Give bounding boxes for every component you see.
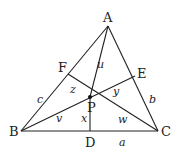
segment-label-x: x [81, 112, 88, 125]
side-label-b: b [149, 93, 156, 106]
label-e: E [137, 66, 147, 81]
label-p: P [87, 100, 96, 115]
segment-label-z: z [69, 83, 76, 96]
label-b: B [9, 124, 19, 139]
segment-label-v: v [56, 112, 63, 125]
label-d: D [85, 135, 95, 150]
segment-label-u: u [97, 58, 104, 71]
segment-label-w: w [118, 113, 128, 126]
point-p-dot [88, 95, 92, 99]
segment-label-y: y [112, 85, 120, 98]
label-a: A [102, 10, 113, 25]
triangle-diagram: A B C D E F P a b c u v w x y z [0, 0, 181, 155]
label-c: C [161, 124, 171, 139]
label-f: F [58, 60, 67, 75]
side-label-a: a [119, 136, 126, 149]
side-label-c: c [37, 93, 43, 106]
